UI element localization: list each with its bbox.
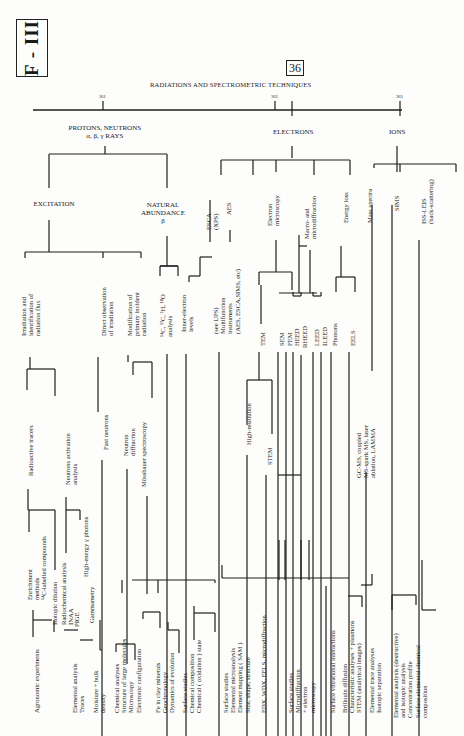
label-inner-electron: Inner-electron levels [180,295,194,332]
label-see-ups: (see UPS) Multifunction instruments (AES… [212,269,241,334]
label-electron-microscopy: Electron microscopy [266,195,280,226]
subcategory-heading: EXCITATION [34,200,75,208]
subcategory-heading: NATURAL ABUNDANCE β [141,201,185,225]
section-badge-label: F - III [21,20,43,76]
label-surface-chemical: Surface studies Chemical composition Che… [181,640,203,713]
label-mossbauer: Mössbauer spectroscopy [140,422,147,487]
document-page: F - III 36 RADIATIONS AND SPECTROMETRIC … [0,0,464,736]
chapter-number-box: 36 [286,60,304,76]
category-heading: PROTONS, NEUTRONS α, β, γ RAYS [69,124,142,140]
label-gammametry: Gammametry [88,587,95,623]
label-surface-diffraction: Surface studies Microdiffraction + elect… [287,669,316,713]
label-energy-loss: Energy loss [342,192,349,223]
label-destructive: Elemental analysis (destructive) and iso… [392,633,428,718]
label-edx: EDX, WDX, EELS, microdiffraction [260,615,267,713]
label-fast-neutrons: Fast neutrons [102,415,109,450]
diagram-title: RADIATIONS AND SPECTROMETRIC TECHNIQUES [150,81,464,88]
label-rheed: RHEED [301,326,308,348]
label-agronomic: Agronomic experiments [33,649,40,713]
label-direct-observation: Direct observation of irradiation [100,287,114,336]
label-sem: SEM [278,332,285,346]
label-irradiation: Irradiation and identification of radiat… [20,294,42,336]
label-aes: AES [225,203,232,215]
label-chemical-group: Chemical analyses Structure of large mol… [113,639,142,713]
label-esca: ESCA (XPS) [205,213,219,230]
label-high-energy-photons: High-energy γ photons [82,517,89,577]
label-modification: Modification of primary incident radiati… [126,292,148,336]
tick-number: 363 [396,94,403,99]
label-vibrational: Surface vibrational interactions [329,630,336,713]
label-leed: LEED [313,329,320,346]
label-sims: SIMS [393,196,400,211]
label-enrichment: Enrichment methods ¹⁴C-labelled compound… [26,536,48,600]
label-neutrons-activation: Neutrons activation analysis [64,433,78,485]
label-tem: TEM [259,332,266,346]
label-iss-leis: ISS-LEIS (back-scattering) [420,179,434,224]
category-heading: ELECTRONS [273,128,313,136]
label-pige: PIGE [73,612,80,627]
section-badge: F - III [16,19,48,77]
tick-number: 362 [271,94,278,99]
label-radioactive-tracers: Radioactive tracers [27,425,34,476]
label-high-resolution: High-resolution [245,403,252,445]
label-isotope-analysis: ¹⁴C, ¹³C, ²H, ¹⁸O analysis [159,294,173,337]
label-phonons: Phonons [331,323,338,346]
technique-tree-diagram [0,0,464,736]
label-trace-analyses: Elemental trace analyses Isotopic separa… [368,648,382,713]
label-ileed: ILEED [321,327,328,346]
label-brillouin: Brillouin diffusion Characteristic analy… [341,620,363,713]
category-heading: IONS [389,128,405,136]
label-stem: STEM [266,447,273,465]
label-mass-spectra: Mass spectra [366,189,373,223]
label-heed: HEED [293,328,300,346]
label-moisture: Moisture + bulk density [92,670,106,713]
label-fe-group: Fe in clay minerals Geochronology Dynami… [154,653,176,713]
label-eels: EELS [349,330,356,346]
label-isotopic-dilution: Isotopic dilution [51,582,58,625]
label-gcms: GC-MS, coupled MS-spark MS, laser ablati… [355,425,377,478]
label-elemental-traces: Elemental analysis Traces [71,663,85,713]
tick-number: 361 [99,94,106,99]
label-neutron-diffraction: Neutron diffraction [122,428,136,456]
label-surface-micro: Surface studies Elemental microanalysis … [222,643,251,713]
label-macro-micro: Macro- and microdiffraction [303,196,317,239]
